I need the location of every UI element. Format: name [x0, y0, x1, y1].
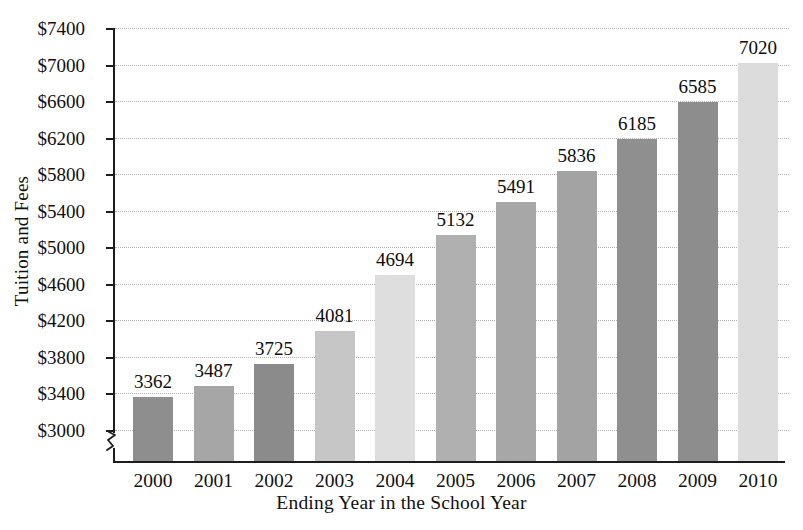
y-axis-tick: [106, 357, 115, 359]
y-tick-label: $7400: [0, 19, 85, 38]
bar-value-label: 4081: [301, 306, 369, 325]
bar: [678, 102, 718, 461]
y-tick-label: $3800: [0, 348, 85, 367]
y-axis-line: [113, 28, 115, 433]
y-tick-label: $6600: [0, 92, 85, 111]
bar-value-label: 3362: [119, 372, 187, 391]
x-tick-label: 2007: [543, 471, 611, 491]
bar-chart: Tuition and Fees Ending Year in the Scho…: [0, 0, 803, 530]
y-tick-label: $3400: [0, 384, 85, 403]
x-axis-title: Ending Year in the School Year: [0, 492, 803, 514]
gridline: [115, 65, 789, 66]
y-axis-tick: [106, 393, 115, 395]
bar: [194, 386, 234, 461]
x-tick-label: 2002: [240, 471, 308, 491]
bar: [436, 235, 476, 461]
bar: [133, 397, 173, 461]
bar-value-label: 3487: [180, 361, 248, 380]
x-tick-label: 2001: [180, 471, 248, 491]
y-axis-tick: [106, 65, 115, 67]
y-tick-label: $4600: [0, 275, 85, 294]
x-axis-line: [113, 461, 785, 463]
x-tick-label: 2008: [603, 471, 671, 491]
x-tick-label: 2000: [119, 471, 187, 491]
y-axis-tick: [106, 174, 115, 176]
bar-value-label: 5836: [543, 146, 611, 165]
bar: [496, 202, 536, 461]
bar-value-label: 6585: [664, 77, 732, 96]
x-tick-label: 2006: [482, 471, 550, 491]
bar: [738, 63, 778, 461]
x-tick-label: 2005: [422, 471, 490, 491]
bar: [557, 171, 597, 461]
bar-value-label: 4694: [361, 250, 429, 269]
x-tick-label: 2010: [724, 471, 792, 491]
axis-break-icon: [106, 431, 124, 451]
y-axis-tick: [106, 247, 115, 249]
y-axis-tick: [106, 101, 115, 103]
y-axis-tick: [106, 138, 115, 140]
x-tick-label: 2003: [301, 471, 369, 491]
bar: [375, 275, 415, 461]
bar-value-label: 7020: [724, 38, 792, 57]
bar: [617, 139, 657, 461]
bar-value-label: 5132: [422, 210, 490, 229]
bar-value-label: 5491: [482, 177, 550, 196]
y-axis-tick: [106, 284, 115, 286]
y-tick-label: $6200: [0, 129, 85, 148]
y-axis-tick: [106, 28, 115, 30]
bar: [315, 331, 355, 461]
y-axis-tick: [106, 430, 115, 432]
y-tick-label: $3000: [0, 421, 85, 440]
y-tick-label: $5400: [0, 202, 85, 221]
x-tick-label: 2004: [361, 471, 429, 491]
bar-value-label: 3725: [240, 339, 308, 358]
bar: [254, 364, 294, 461]
y-axis-tick: [106, 211, 115, 213]
plot-area: $7400$7000$6600$6200$5800$5400$5000$4600…: [113, 20, 789, 462]
x-tick-label: 2009: [664, 471, 732, 491]
gridline: [115, 28, 789, 29]
y-tick-label: $5000: [0, 238, 85, 257]
bar-value-label: 6185: [603, 114, 671, 133]
y-tick-label: $7000: [0, 56, 85, 75]
y-tick-label: $5800: [0, 165, 85, 184]
y-tick-label: $4200: [0, 311, 85, 330]
y-axis-tick: [106, 320, 115, 322]
